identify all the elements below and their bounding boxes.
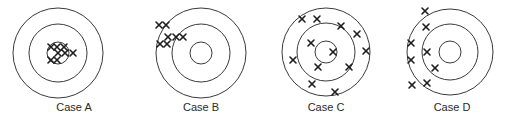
x-mark-icon — [70, 50, 76, 56]
x-mark-icon — [163, 22, 169, 28]
x-mark-icon — [408, 57, 414, 63]
x-mark-icon — [424, 80, 430, 86]
x-mark-icon — [290, 57, 296, 63]
bullseye-ring — [190, 42, 212, 64]
x-mark-icon — [330, 49, 336, 55]
case-label-c: Case C — [308, 101, 345, 113]
x-mark-icon — [423, 24, 429, 30]
outer-ring — [282, 8, 370, 96]
x-mark-icon — [157, 41, 163, 47]
x-mark-icon — [309, 81, 315, 87]
x-mark-icon — [315, 64, 321, 70]
target-case-a: Case A — [13, 8, 103, 113]
x-mark-icon — [424, 49, 430, 55]
x-mark-icon — [180, 34, 186, 40]
case-label-a: Case A — [56, 101, 92, 113]
x-mark-icon — [432, 65, 438, 71]
x-mark-icon — [308, 40, 314, 46]
bullseye-ring — [439, 41, 461, 63]
x-mark-icon — [363, 48, 369, 54]
hit-marks — [48, 44, 76, 63]
x-mark-icon — [422, 8, 428, 14]
x-mark-icon — [61, 44, 67, 50]
x-mark-icon — [314, 16, 320, 22]
target-case-b: Case B — [156, 8, 246, 113]
x-mark-icon — [299, 16, 305, 22]
middle-ring — [422, 24, 478, 80]
concentric-rings — [407, 9, 493, 95]
middle-ring — [172, 24, 230, 82]
x-mark-icon — [165, 34, 171, 40]
x-mark-icon — [156, 22, 162, 28]
case-label-b: Case B — [183, 101, 219, 113]
case-label-d: Case D — [434, 101, 471, 113]
outer-ring — [407, 9, 493, 95]
x-mark-icon — [408, 40, 414, 46]
x-mark-icon — [54, 44, 60, 50]
x-mark-icon — [54, 57, 60, 63]
target-diagram-canvas: Case A Case B Case C Case D — [0, 0, 509, 120]
target-case-d: Case D — [407, 8, 493, 113]
target-case-c: Case C — [282, 8, 370, 113]
middle-ring — [297, 23, 355, 81]
x-mark-icon — [409, 82, 415, 88]
x-mark-icon — [55, 50, 61, 56]
x-mark-icon — [164, 41, 170, 47]
x-mark-icon — [354, 31, 360, 37]
concentric-rings — [282, 8, 370, 96]
hit-marks — [408, 8, 438, 88]
x-mark-icon — [332, 89, 338, 95]
target-diagram-figure: Case A Case B Case C Case D — [0, 0, 509, 120]
x-mark-icon — [62, 50, 68, 56]
